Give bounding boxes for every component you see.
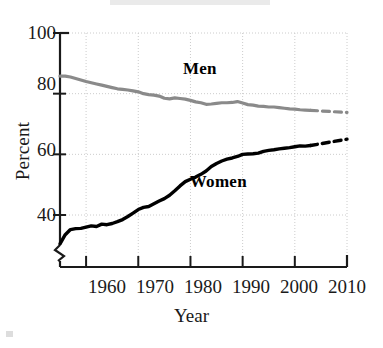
series-line-men — [60, 76, 310, 110]
series-line-men-projected — [310, 110, 347, 112]
x-axis-title: Year — [0, 305, 383, 327]
series-label-women: Women — [190, 172, 247, 192]
chart-container: Percent 100 80 60 40 1960 1970 1980 1990… — [0, 0, 383, 348]
y-axis-break-zigzag — [55, 245, 64, 261]
series-label-men: Men — [183, 59, 217, 79]
axis-ticks-group — [53, 33, 295, 267]
series-line-women-projected — [310, 139, 347, 145]
data-series-group — [60, 76, 347, 244]
series-line-women — [60, 146, 310, 244]
